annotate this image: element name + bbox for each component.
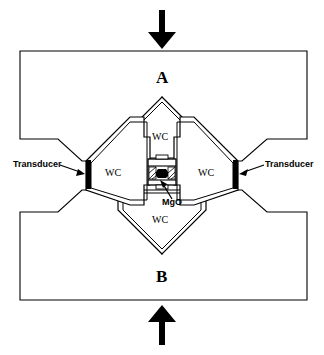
anvil-left-label: WC	[105, 168, 121, 178]
anvil-bottom-label: WC	[152, 215, 168, 225]
anvil-right-label: WC	[198, 168, 214, 178]
mgo-label: MgO	[162, 198, 182, 207]
block-b-label: B	[156, 268, 167, 285]
figure-root: A B WC WC WC WC MgO Transducer Transduce…	[0, 0, 324, 355]
block-a-label: A	[156, 69, 168, 86]
mgo-sample	[156, 169, 168, 178]
transducer-right-label: Transducer	[265, 160, 314, 169]
gasket-left	[149, 167, 156, 179]
transducer-left[interactable]	[86, 160, 91, 189]
transducer-right[interactable]	[233, 160, 238, 189]
load-arrow-bottom-icon	[148, 305, 176, 345]
transducer-right-leader-arrow-icon	[239, 165, 264, 176]
transducer-left-label: Transducer	[13, 160, 62, 169]
anvil-top-label: WC	[152, 132, 168, 142]
gasket-right	[168, 167, 175, 179]
transducer-left-leader-arrow-icon	[60, 165, 85, 176]
diagram-canvas	[0, 0, 324, 355]
load-arrow-top-icon	[148, 10, 176, 49]
